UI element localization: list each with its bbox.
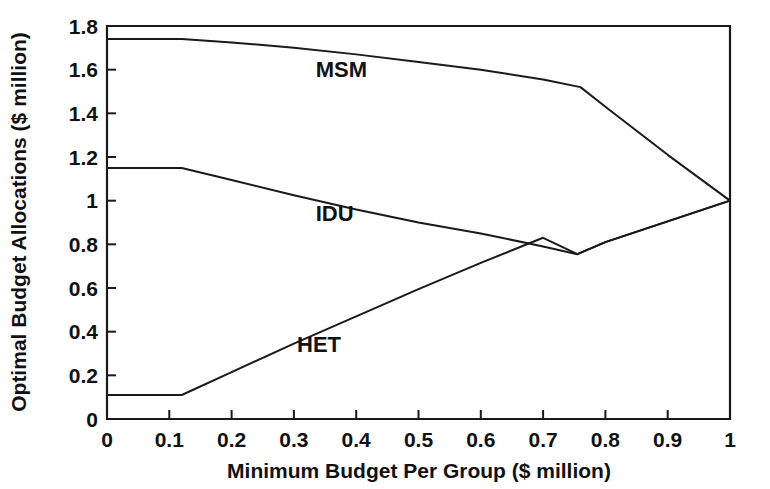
- y-tick-label: 1.2: [69, 146, 98, 169]
- y-tick-label: 1.8: [69, 15, 99, 38]
- x-tick-label: 0.9: [653, 428, 682, 451]
- x-tick-label: 0.6: [466, 428, 495, 451]
- x-tick-label: 0: [101, 428, 113, 451]
- x-tick-label: 0.7: [528, 428, 557, 451]
- y-tick-label: 1: [86, 189, 98, 212]
- y-tick-label: 0: [86, 408, 98, 431]
- y-axis-title: Optimal Budget Allocations ($ million): [7, 32, 30, 412]
- chart-canvas: 00.20.40.60.811.21.41.61.800.10.20.30.40…: [0, 0, 770, 489]
- y-tick-label: 0.4: [69, 320, 99, 343]
- x-tick-label: 0.1: [155, 428, 185, 451]
- x-tick-label: 1: [724, 428, 736, 451]
- series-line-msm: [107, 39, 730, 201]
- y-tick-label: 0.6: [69, 277, 98, 300]
- y-tick-label: 0.2: [69, 364, 98, 387]
- series-label-msm: MSM: [316, 57, 367, 82]
- series-line-idu: [107, 168, 730, 254]
- series-lines: [107, 39, 730, 395]
- series-label-idu: IDU: [316, 201, 354, 226]
- x-tick-label: 0.3: [279, 428, 308, 451]
- x-axis-title: Minimum Budget Per Group ($ million): [227, 459, 611, 482]
- x-tick-label: 0.2: [217, 428, 246, 451]
- y-tick-label: 1.4: [69, 102, 99, 125]
- series-labels: MSMIDUHET: [297, 57, 367, 357]
- series-label-het: HET: [297, 332, 342, 357]
- y-tick-label: 1.6: [69, 58, 98, 81]
- x-tick-label: 0.4: [342, 428, 372, 451]
- chart-figure: 00.20.40.60.811.21.41.61.800.10.20.30.40…: [0, 0, 770, 489]
- x-tick-label: 0.8: [591, 428, 621, 451]
- x-tick-label: 0.5: [404, 428, 434, 451]
- y-tick-label: 0.8: [69, 233, 99, 256]
- series-line-het: [107, 201, 730, 395]
